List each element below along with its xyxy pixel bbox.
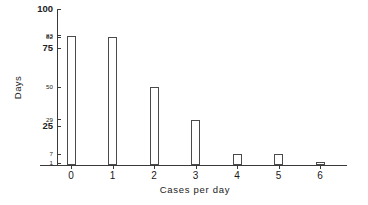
bar — [67, 36, 76, 165]
y-tick-mark — [57, 154, 61, 155]
y-tick-mark — [57, 48, 61, 49]
x-tick-mark — [279, 165, 280, 169]
x-tick-mark — [320, 165, 321, 169]
x-tick-mark — [237, 165, 238, 169]
y-tick-label: 50 — [13, 83, 53, 90]
histogram-figure: Days Cases per day 10083827550292571 012… — [0, 0, 368, 205]
y-tick-mark — [57, 37, 61, 38]
bar — [108, 37, 117, 165]
x-tick-mark — [196, 165, 197, 169]
y-tick-mark — [57, 9, 61, 10]
x-tick-label: 5 — [269, 170, 289, 181]
y-tick-mark — [57, 163, 61, 164]
y-tick-mark — [57, 119, 61, 120]
x-tick-mark — [154, 165, 155, 169]
x-axis-line — [40, 165, 347, 166]
bar — [316, 162, 325, 165]
y-tick-mark — [57, 87, 61, 88]
y-tick-label: 7 — [13, 150, 53, 157]
y-tick-mark — [57, 126, 61, 127]
bar — [191, 120, 200, 165]
x-tick-label: 0 — [61, 170, 81, 181]
y-tick-label: 1 — [13, 159, 53, 166]
bar — [233, 154, 242, 165]
y-tick-label: 82 — [13, 33, 53, 40]
x-tick-mark — [113, 165, 114, 169]
y-tick-label: 100 — [13, 3, 53, 14]
x-tick-label: 2 — [144, 170, 164, 181]
x-tick-label: 4 — [227, 170, 247, 181]
y-axis-line — [57, 9, 58, 166]
y-tick-label: 75 — [13, 42, 53, 53]
x-tick-label: 6 — [310, 170, 330, 181]
bar — [274, 154, 283, 165]
x-tick-label: 3 — [186, 170, 206, 181]
x-tick-label: 1 — [103, 170, 123, 181]
x-tick-mark — [71, 165, 72, 169]
y-tick-label: 25 — [13, 120, 53, 131]
x-axis-title: Cases per day — [0, 184, 368, 195]
bar — [150, 87, 159, 165]
